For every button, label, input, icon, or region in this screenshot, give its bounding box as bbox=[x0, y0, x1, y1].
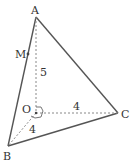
tetrahedron-figure: A M O B C 5 4 4 bbox=[0, 0, 136, 165]
label-M: M bbox=[15, 48, 26, 61]
point-O bbox=[35, 112, 37, 114]
diagram-canvas: A M O B C 5 4 4 bbox=[0, 0, 136, 165]
length-OB: 4 bbox=[29, 123, 36, 136]
length-OA: 5 bbox=[40, 66, 47, 79]
edge-BC bbox=[8, 113, 118, 146]
length-OC: 4 bbox=[73, 100, 80, 113]
edge-AC bbox=[36, 17, 118, 113]
label-A: A bbox=[30, 4, 40, 17]
point-M bbox=[27, 53, 30, 56]
label-C: C bbox=[121, 108, 129, 121]
label-B: B bbox=[3, 150, 11, 163]
label-O: O bbox=[22, 103, 31, 116]
